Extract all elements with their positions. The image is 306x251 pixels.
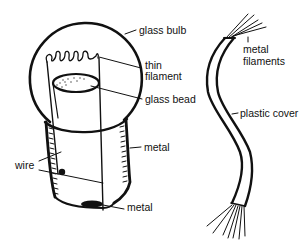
label-glass-bead: glass bead	[145, 94, 196, 105]
light-bulb	[30, 23, 142, 210]
label-wire: wire	[15, 160, 34, 171]
label-glass-bulb: glass bulb	[139, 25, 186, 36]
base-top-edge	[45, 119, 127, 132]
label-metal-filaments-line1: metal	[243, 44, 269, 55]
bottom-metal-contact	[81, 200, 103, 207]
leader-metal-side	[130, 147, 141, 148]
leader-glass-bulb	[125, 30, 136, 34]
label-plastic-cover: plastic cover	[240, 108, 298, 119]
label-metal-bottom: metal	[127, 202, 153, 213]
base-threads	[49, 126, 127, 194]
cable-left-edge	[207, 38, 242, 203]
leader-glass-bead	[91, 86, 142, 99]
filament-coil	[46, 51, 98, 62]
leader-plastic-cover	[232, 113, 238, 114]
diagram-canvas: glass bulb thin filament glass bead meta…	[0, 0, 306, 251]
leader-thin-filament	[99, 57, 141, 68]
diagram-drawing	[0, 0, 306, 251]
label-metal-filaments-line2: filaments	[243, 56, 285, 67]
label-metal-side: metal	[144, 142, 170, 153]
top-metal-filaments	[226, 14, 266, 38]
leader-wire-lower	[39, 170, 103, 183]
label-thin-filament-line2: filament	[145, 71, 182, 82]
glass-bulb-outline	[30, 23, 142, 122]
bottom-metal-filaments	[207, 205, 245, 239]
